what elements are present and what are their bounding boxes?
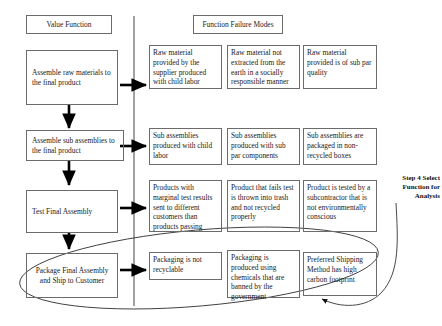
failure-mode-box-1-1: Raw material provided by the supplier pr…	[149, 45, 222, 89]
value-function-box-2: Assemble sub assemblies to the final pro…	[26, 130, 124, 161]
step4-line-2: Function for	[378, 183, 440, 192]
failure-mode-box-1-3: Raw material provided is of sub par qual…	[303, 45, 377, 89]
step4-line-3: Analysis	[378, 192, 440, 201]
step4-annotation: Step 4 Select Function for Analysis	[378, 174, 440, 201]
failure-mode-box-3-1: Products with marginal test results sent…	[149, 180, 222, 232]
failure-mode-box-4-1: Packaging is not recyclable	[149, 252, 222, 280]
failure-mode-box-2-2: Sub assemblies produced with sub par com…	[227, 128, 300, 165]
failure-mode-box-2-1: Sub assemblies produced with child labor	[149, 128, 222, 165]
flowchart-diagram: Value Function Function Failure Modes As…	[0, 0, 442, 326]
value-function-header: Value Function	[26, 15, 112, 34]
failure-mode-box-1-2: Raw material not extracted from the eart…	[227, 45, 300, 89]
failure-mode-box-3-2: Product that fails test is thrown into t…	[227, 180, 300, 232]
failure-mode-box-4-2: Packaging is produced using chemicals th…	[227, 250, 300, 298]
value-function-box-1: Assemble raw materials to the final prod…	[26, 50, 118, 105]
failure-mode-box-2-3: Sub assemblies are packaged in non-recyc…	[303, 128, 377, 165]
value-function-box-4: Package Final Assembly and Ship to Custo…	[26, 253, 118, 298]
failure-mode-box-3-3: Product is tested by a subcontractor tha…	[303, 180, 377, 232]
failure-mode-box-4-3: Preferred Shipping Method has high carbo…	[303, 252, 377, 296]
failure-modes-header: Function Failure Modes	[193, 15, 283, 34]
step4-line-1: Step 4 Select	[378, 174, 440, 183]
value-function-box-3: Test Final Assembly	[26, 190, 118, 233]
